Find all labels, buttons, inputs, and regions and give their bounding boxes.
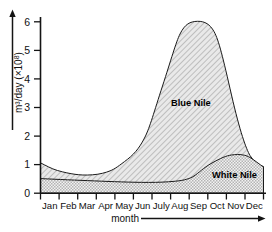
y-axis-title-base: m³/day (×10 xyxy=(13,59,24,113)
x-tick-label: Oct xyxy=(210,200,225,211)
x-axis-title: month xyxy=(111,213,139,224)
x-axis-tick-labels: Jan Feb Mar Apr May Jun July Aug Sep Oct… xyxy=(42,200,263,211)
series-label-white-nile: White Nile xyxy=(212,170,257,180)
y-tick-label: 1 xyxy=(24,158,30,170)
y-tick-label: 6 xyxy=(24,16,30,28)
y-tick-label: 4 xyxy=(24,73,30,85)
chart-canvas: 0 1 2 3 4 5 6 Jan Feb M xyxy=(0,0,272,232)
x-tick-label: Jun xyxy=(135,200,150,211)
y-tick-label: 0 xyxy=(24,187,30,199)
x-tick-label: Feb xyxy=(60,200,77,211)
x-tick-label: Aug xyxy=(171,200,188,211)
x-tick-label: Apr xyxy=(98,200,114,211)
y-axis-title: m³/day (×108) xyxy=(13,52,25,113)
x-axis-ticks xyxy=(41,193,264,199)
y-axis-tick-labels: 0 1 2 3 4 5 6 xyxy=(24,16,30,199)
x-tick-label: Dec xyxy=(246,200,263,211)
y-tick-label: 5 xyxy=(24,44,30,56)
y-tick-label: 2 xyxy=(24,130,30,142)
x-tick-label: Jan xyxy=(42,200,57,211)
x-tick-label: Mar xyxy=(79,200,96,211)
y-axis-title-close: ) xyxy=(13,52,24,55)
x-tick-label: May xyxy=(115,200,133,211)
x-tick-label: Nov xyxy=(227,200,244,211)
y-tick-label: 3 xyxy=(24,101,30,113)
y-axis-ticks xyxy=(34,22,41,193)
x-tick-label: July xyxy=(153,200,170,211)
x-tick-label: Sep xyxy=(190,200,207,211)
series-label-blue-nile: Blue Nile xyxy=(171,98,211,108)
figure-nile-discharge: 0 1 2 3 4 5 6 Jan Feb M xyxy=(0,0,272,232)
